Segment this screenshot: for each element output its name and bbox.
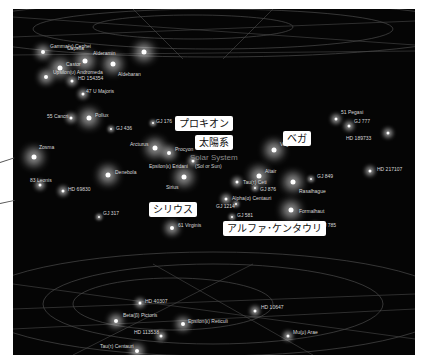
star-label: GJ 849 <box>317 174 333 179</box>
grid-line-bottom-4 <box>153 264 313 355</box>
star-2 <box>111 62 116 67</box>
star-8 <box>32 155 37 160</box>
orbit-ring-bottom-inner <box>73 278 273 330</box>
star-42 <box>135 349 139 353</box>
grid-line-top-1 <box>13 21 415 37</box>
star-label: Castor <box>66 62 81 67</box>
star-31 <box>369 170 372 173</box>
star-43 <box>287 335 290 338</box>
star-label: HD 154354 <box>78 76 103 81</box>
star-label: GJ 436 <box>116 126 132 131</box>
star-label: GJ 176 <box>156 119 172 124</box>
star-label: HD 113538 <box>134 330 159 335</box>
callout-alpha-centauri: アルファ･ケンタウリ <box>223 221 326 236</box>
star-38 <box>114 319 118 323</box>
star-16 <box>98 216 100 218</box>
star-33 <box>231 216 233 218</box>
star-32 <box>225 198 228 201</box>
grid-line-bottom-5 <box>13 284 415 339</box>
solar-system-label: Solar System <box>190 154 238 162</box>
star-39 <box>181 322 185 326</box>
star-label: Sirius <box>166 185 179 190</box>
star-13 <box>39 184 42 187</box>
star-label: Zosma <box>39 145 54 150</box>
star-label: Beta(β) Pictoris <box>123 313 157 318</box>
star-23 <box>348 125 351 128</box>
star-label: Tau(τ) Ceti <box>243 180 267 185</box>
star-label: GJ 777 <box>354 119 370 124</box>
star-label: 47 U Majoris <box>86 89 114 94</box>
star-10 <box>167 151 171 155</box>
grid-line-bottom-3 <box>73 264 253 355</box>
grid-line-top-3 <box>133 9 183 59</box>
star-label: GJ 876 <box>260 187 276 192</box>
star-label: Formalhaut <box>299 209 324 214</box>
grid-line-top-2 <box>13 17 415 45</box>
star-label: Pollux <box>95 113 109 118</box>
star-label: Epsilon(ε) Reticuli <box>188 319 228 324</box>
star-label: Epsilon(ε) Eridani <box>149 164 188 169</box>
star-label: GJ 317 <box>103 211 119 216</box>
callout-procyon: プロキオン <box>175 116 233 131</box>
star-25 <box>272 148 277 153</box>
star-41 <box>160 335 163 338</box>
star-0 <box>142 50 147 55</box>
star-12 <box>106 173 111 178</box>
star-label: GJ 1214 <box>216 204 235 209</box>
star-34 <box>235 203 237 205</box>
star-label: HD 189733 <box>346 136 371 141</box>
star-29 <box>291 180 296 185</box>
star-label: Alderamin <box>93 51 116 56</box>
star-30 <box>310 178 312 180</box>
orbit-ring-bottom-mid <box>43 264 383 344</box>
grid-line-top-4 <box>223 9 273 59</box>
star-7 <box>152 122 154 124</box>
star-label: Tau(τ) Centauri <box>100 344 134 349</box>
star-22 <box>335 118 338 121</box>
star-3 <box>82 93 85 96</box>
star-14 <box>62 190 65 193</box>
star-label: 51 Pegasi <box>341 110 363 115</box>
star-24 <box>387 132 390 135</box>
star-6 <box>110 128 112 130</box>
star-label: Alpha(α) Centauri <box>232 196 271 201</box>
star-label: Arcturus <box>130 142 149 147</box>
star-map-panel: CapellaCastorAldebaran47 U Majoris55 Can… <box>13 9 415 355</box>
star-40 <box>254 310 257 313</box>
star-label: Gamma(γ) Cephei <box>50 44 91 49</box>
star-18 <box>41 50 45 54</box>
star-37 <box>139 302 142 305</box>
star-15 <box>182 175 187 180</box>
star-17 <box>170 226 174 230</box>
star-label: Mu(μ) Arae <box>293 330 318 335</box>
star-label: 61 Virginis <box>178 223 201 228</box>
star-35 <box>289 208 294 213</box>
star-label: Rasalhague <box>299 189 326 194</box>
callout-sun: 太陽系 <box>195 135 233 150</box>
callout-sirius: シリウス <box>149 202 197 217</box>
star-5 <box>87 116 92 121</box>
star-label: Aldebaran <box>118 72 141 77</box>
star-9 <box>153 146 158 151</box>
star-26 <box>257 174 262 179</box>
star-label: HD 10647 <box>261 305 284 310</box>
star-4 <box>70 117 73 120</box>
star-21 <box>71 80 74 83</box>
star-label: HD 217107 <box>377 167 402 172</box>
callout-vega: ベガ <box>283 131 311 146</box>
star-label: Denebola <box>115 170 136 175</box>
star-19 <box>83 59 88 64</box>
solar-system-sublabel: (Sol or Sun) <box>195 164 222 169</box>
star-20 <box>44 75 48 79</box>
star-27 <box>236 181 239 184</box>
star-label: Altair <box>265 169 276 174</box>
star-label: HD 69830 <box>68 187 91 192</box>
star-28 <box>254 187 256 189</box>
star-label: 83 Leonis <box>30 178 52 183</box>
star-label: GJ 581 <box>237 213 253 218</box>
star-label: Procyon <box>175 147 193 152</box>
star-label: HD 40307 <box>145 299 168 304</box>
star-label: 55 Cancri <box>47 114 68 119</box>
